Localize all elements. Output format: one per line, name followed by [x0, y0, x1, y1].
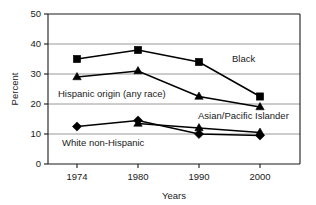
series-label-asian-pacific-islander: Asian/Pacific Islander	[198, 110, 289, 121]
y-tick-label: 10	[30, 128, 41, 139]
data-marker-square	[256, 93, 263, 100]
chart-container: 01020304050 1974198019902000 Percent Yea…	[0, 0, 316, 205]
y-tick-label: 50	[30, 8, 41, 19]
series-label-hispanic: Hispanic origin (any race)	[58, 88, 166, 99]
series-label-black: Black	[232, 53, 255, 64]
data-marker-square	[73, 55, 80, 62]
data-marker-square	[134, 46, 141, 53]
x-axis-title: Years	[162, 190, 186, 201]
y-tick-label: 30	[30, 68, 41, 79]
y-tick-label: 40	[30, 38, 41, 49]
y-axis-title: Percent	[9, 72, 20, 105]
x-tick-label: 1974	[66, 171, 87, 182]
line-chart: 01020304050 1974198019902000 Percent Yea…	[0, 0, 316, 205]
x-tick-label: 2000	[249, 171, 270, 182]
x-tick-label: 1980	[127, 171, 148, 182]
y-tick-label: 20	[30, 98, 41, 109]
series-label-white-non-hispanic: White non-Hispanic	[62, 137, 145, 148]
y-tick-label: 0	[36, 158, 41, 169]
data-marker-square	[195, 58, 202, 65]
x-tick-label: 1990	[188, 171, 209, 182]
